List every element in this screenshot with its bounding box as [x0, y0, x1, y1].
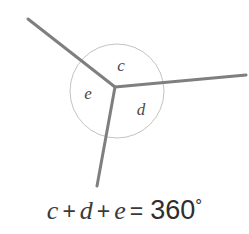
equation-plus-1: + [58, 198, 79, 225]
ray-upper-left [28, 19, 115, 87]
equation-variable-e: e [114, 196, 126, 226]
angle-sum-equation: c + d + e = 360 ° [0, 195, 249, 226]
equation-plus-2: + [93, 198, 114, 225]
equation-equals-sign: = [126, 198, 147, 225]
equation-variable-c: c [47, 196, 59, 226]
angle-label-c: c [117, 56, 125, 75]
angles-around-point-figure: c e d c + d + e = 360 ° [0, 0, 249, 234]
equation-variable-d: d [80, 196, 93, 226]
degree-symbol: ° [195, 196, 202, 216]
equation-value: 360 [150, 195, 195, 226]
ray-right [115, 75, 246, 87]
angle-label-d: d [137, 100, 146, 119]
ray-lower-left [97, 87, 115, 186]
angle-label-e: e [84, 84, 92, 103]
